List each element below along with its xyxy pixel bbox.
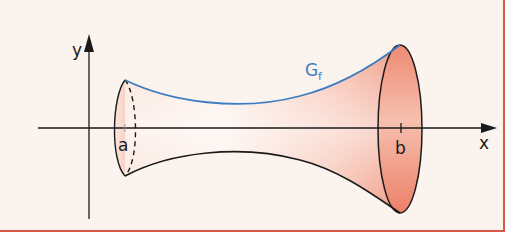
graph-label-g: G <box>305 60 318 80</box>
bound-b-label: b <box>395 138 406 158</box>
bound-a-label: a <box>118 135 128 155</box>
solid-of-revolution-diagram: y x a b G f <box>0 0 532 240</box>
right-end-cap <box>378 45 422 213</box>
diagram-panel: y x a b G f <box>0 0 532 240</box>
y-axis-label: y <box>72 40 82 60</box>
x-axis-label: x <box>479 133 489 153</box>
